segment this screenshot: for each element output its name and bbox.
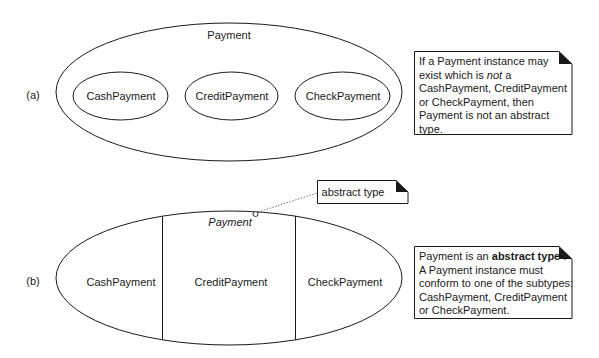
payment-supertype-label-a: Payment bbox=[207, 29, 250, 42]
payment-abstract-label-b: Payment bbox=[208, 216, 251, 229]
note-a-text: If a Payment instance may exist which is… bbox=[419, 55, 567, 137]
check-payment-label-a: CheckPayment bbox=[306, 90, 381, 103]
note-b-text: Payment is an abstract type . A Payment … bbox=[419, 250, 573, 318]
cash-payment-label-b: CashPayment bbox=[86, 276, 155, 289]
credit-payment-label-a: CreditPayment bbox=[196, 90, 269, 103]
abstract-marker-icon bbox=[253, 212, 258, 217]
credit-payment-label-b: CreditPayment bbox=[195, 276, 268, 289]
cash-payment-label-a: CashPayment bbox=[86, 90, 155, 103]
abstract-callout-connector bbox=[258, 193, 317, 212]
abstract-type-callout-text: abstract type bbox=[322, 186, 385, 199]
check-payment-label-b: CheckPayment bbox=[308, 276, 383, 289]
panel-a-label: (a) bbox=[26, 89, 39, 102]
panel-b-label: (b) bbox=[26, 275, 39, 288]
